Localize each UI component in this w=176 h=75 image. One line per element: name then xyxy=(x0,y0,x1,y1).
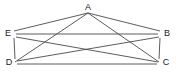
graph-edge-a-d xyxy=(15,13,88,62)
graph-edge-a-b xyxy=(88,13,160,31)
graph-vertex-label-a: A xyxy=(85,2,91,12)
graph-figure: AEBDC xyxy=(0,0,176,75)
graph-vertex-label-e: E xyxy=(5,28,11,38)
graph-edge-e-d xyxy=(14,38,15,59)
graph-edges-group xyxy=(14,13,160,64)
graph-vertex-label-d: D xyxy=(6,57,13,67)
graph-vertex-label-b: B xyxy=(164,28,170,38)
graph-edge-a-e xyxy=(14,13,88,31)
graph-edge-a-c xyxy=(88,13,159,62)
graph-vertex-label-c: C xyxy=(163,57,170,67)
graph-vertex-labels-group: AEBDC xyxy=(5,2,170,67)
graph-canvas: AEBDC xyxy=(0,0,176,75)
graph-edge-b-c xyxy=(159,38,160,59)
